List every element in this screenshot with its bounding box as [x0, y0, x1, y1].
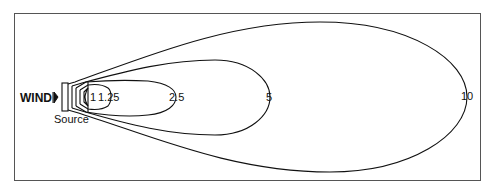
- source-box: [62, 83, 68, 111]
- plume-diagram: [0, 0, 493, 190]
- contour-1: [84, 88, 88, 106]
- wind-arrow-icon: [53, 92, 58, 103]
- source-label: Source: [54, 114, 89, 125]
- contour-label-10: 10: [461, 91, 473, 102]
- contour-label-1: 1: [90, 92, 96, 103]
- wind-label: WIND: [20, 92, 52, 104]
- contour-label-1-25: 1.25: [98, 92, 119, 103]
- contour-label-2-5: 2.5: [169, 92, 184, 103]
- contour-label-5: 5: [266, 92, 272, 103]
